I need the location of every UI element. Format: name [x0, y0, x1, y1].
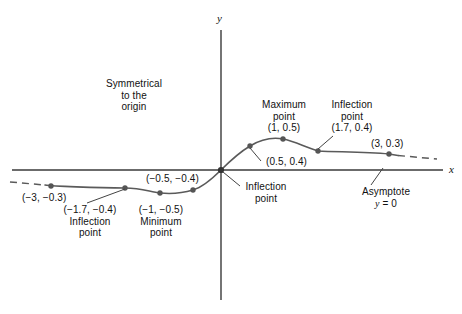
data-point-1	[280, 136, 285, 141]
function-curve	[45, 138, 389, 193]
maximum-point-line1: Maximum	[262, 99, 306, 111]
inflection-right-line1: Inflection	[331, 99, 372, 111]
asymptote-equation: y = 0	[362, 198, 410, 210]
inflection-left-coord: (−1.7, −0.4)	[64, 204, 117, 216]
point-label-0p5: (0.5, 0.4)	[266, 156, 307, 168]
maximum-point-annotation: Maximum point (1, 0.5)	[262, 99, 306, 134]
maximum-point-line2: point	[262, 111, 306, 123]
data-point-neg1	[157, 190, 162, 195]
inflection-point-right-annotation: Inflection point (1.7, 0.4)	[331, 99, 372, 134]
inflection-point-left-annotation: (−1.7, −0.4) Inflection point	[64, 204, 117, 239]
asymptote-equals-zero: = 0	[380, 198, 397, 209]
symmetry-note: Symmetrical to the origin	[106, 78, 162, 113]
minimum-point-annotation: (−1, −0.5) Minimum point	[139, 204, 183, 239]
data-point-neg0p5	[190, 187, 195, 192]
data-point-0p5	[247, 143, 252, 148]
inflection-left-line2: point	[64, 227, 117, 239]
symmetry-note-line1: Symmetrical	[106, 78, 162, 90]
inflection-right-line2: point	[331, 111, 372, 123]
data-point-neg3	[48, 183, 53, 188]
leader-line-inflection-right	[318, 136, 333, 149]
maximum-point-coord: (1, 0.5)	[262, 122, 306, 134]
inflection-origin-line1: Inflection	[245, 181, 286, 193]
curve-dashed-left-tail	[10, 182, 45, 185]
symmetry-note-line3: origin	[106, 101, 162, 113]
x-axis-label: x	[449, 163, 454, 175]
leader-line-inflection-origin	[223, 172, 240, 186]
symmetry-note-line2: to the	[106, 90, 162, 102]
inflection-left-line1: Inflection	[64, 216, 117, 228]
point-label-neg3: (−3, −0.3)	[22, 192, 66, 204]
asymptote-line1: Asymptote	[362, 186, 410, 198]
minimum-point-coord: (−1, −0.5)	[139, 204, 183, 216]
inflection-point-origin-annotation: Inflection point	[245, 181, 286, 204]
data-point-1p7	[315, 148, 320, 153]
data-point-3	[386, 151, 391, 156]
inflection-right-coord: (1.7, 0.4)	[331, 122, 372, 134]
point-label-neg0p5: (−0.5, −0.4)	[146, 173, 199, 185]
point-label-3: (3, 0.3)	[371, 138, 403, 150]
asymptote-annotation: Asymptote y = 0	[362, 186, 410, 209]
inflection-origin-line2: point	[245, 193, 286, 205]
y-axis-label: y	[217, 12, 222, 24]
curve-dashed-right-tail	[398, 156, 437, 160]
minimum-point-line2: point	[139, 227, 183, 239]
minimum-point-line1: Minimum	[139, 216, 183, 228]
leader-line-point-0p5	[250, 148, 261, 161]
leader-line-inflection-left	[87, 189, 125, 203]
function-graph-figure	[0, 0, 462, 314]
